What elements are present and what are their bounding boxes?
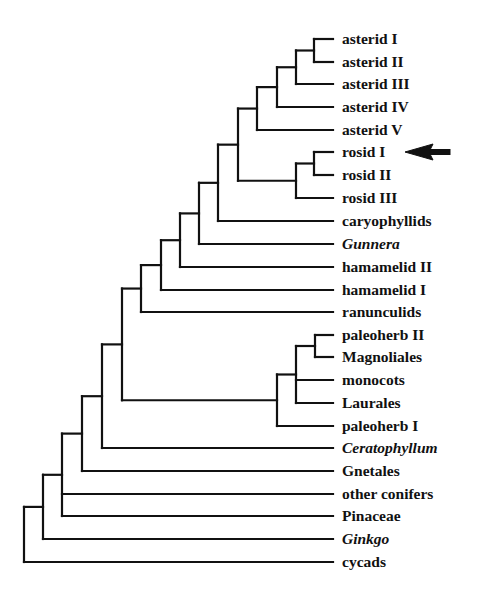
arrow-head [405, 144, 433, 160]
leaf-label-asterid-3: asterid III [342, 75, 410, 92]
arrow-shaft [429, 150, 450, 155]
leaf-label-other-conifers: other conifers [342, 485, 433, 502]
highlight-arrow-icon [405, 144, 450, 160]
leaf-label-pinaceae: Pinaceae [342, 507, 401, 524]
leaf-label-ginkgo: Ginkgo [342, 530, 390, 547]
leaf-label-caryophyllids: caryophyllids [342, 212, 432, 229]
leaf-label-paleoherb-2: paleoherb II [342, 326, 424, 343]
phylogenetic-tree: asterid Iasterid IIasterid IIIasterid IV… [0, 0, 481, 601]
leaf-label-laurales: Laurales [342, 394, 401, 411]
leaf-label-asterid-4: asterid IV [342, 98, 410, 115]
leaf-label-asterid-5: asterid V [342, 121, 403, 138]
leaf-label-hamamelid-1: hamamelid I [342, 281, 426, 298]
leaf-label-gunnera: Gunnera [342, 235, 400, 252]
leaf-label-asterid-2: asterid II [342, 53, 404, 70]
leaf-label-gnetales: Gnetales [342, 462, 400, 479]
leaf-label-rosid-3: rosid III [342, 189, 397, 206]
leaf-label-monocots: monocots [342, 371, 405, 388]
leaf-label-asterid-1: asterid I [342, 30, 398, 47]
leaf-label-rosid-1: rosid I [342, 143, 385, 160]
leaf-label-rosid-2: rosid II [342, 166, 391, 183]
leaf-label-ceratophyllum: Ceratophyllum [342, 439, 438, 456]
leaf-label-paleoherb-1: paleoherb I [342, 417, 418, 434]
leaf-label-cycads: cycads [342, 553, 386, 570]
leaf-label-magnoliales: Magnoliales [342, 348, 422, 365]
tree-branches [24, 39, 333, 562]
leaf-labels: asterid Iasterid IIasterid IIIasterid IV… [342, 30, 438, 570]
leaf-label-hamamelid-2: hamamelid II [342, 258, 432, 275]
leaf-label-ranunculids: ranunculids [342, 303, 421, 320]
